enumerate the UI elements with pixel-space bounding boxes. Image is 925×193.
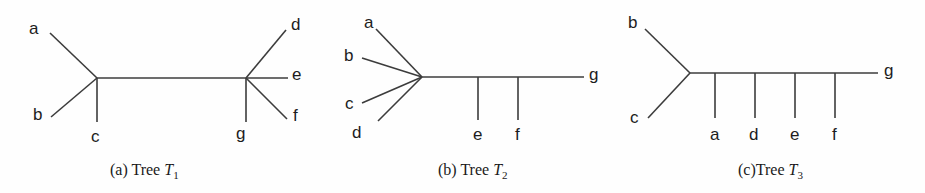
tree-t3-edge-b	[645, 29, 690, 73]
tree-t2-edge-c	[362, 77, 422, 103]
tree-t3-leaf-label-g: g	[884, 62, 893, 79]
tree-t3-caption-subscript: 3	[797, 169, 803, 181]
tree-t1-edge-d	[246, 30, 286, 78]
tree-t1-caption-variable: T	[164, 161, 173, 178]
tree-t1-edge-b	[51, 78, 97, 117]
edges-group	[50, 29, 878, 122]
tree-t2-caption-subscript: 2	[502, 169, 508, 181]
tree-t2-leaf-label-d: d	[352, 124, 361, 141]
tree-t2-caption-prefix: (b)	[438, 161, 460, 178]
tree-t3-leaf-label-d: d	[749, 126, 758, 143]
tree-t1-leaf-label-f: f	[293, 107, 298, 124]
tree-t1-leaf-label-a: a	[29, 20, 38, 37]
tree-t1-leaf-label-b: b	[33, 106, 42, 123]
tree-t3-leaf-label-c: c	[630, 109, 639, 126]
tree-t1-edge-f	[246, 78, 287, 119]
tree-t1-leaf-label-d: d	[291, 16, 300, 33]
tree-t3-caption-word: Tree	[756, 161, 789, 178]
tree-t2-leaf-label-g: g	[589, 66, 598, 83]
tree-t3-edges	[645, 29, 878, 118]
tree-t3-caption-prefix: (c)	[738, 161, 756, 178]
tree-t3-edge-c	[648, 73, 690, 118]
tree-t1-caption-subscript: 1	[173, 169, 179, 181]
tree-t2-leaf-label-a: a	[364, 14, 373, 31]
tree-t2-leaf-label-c: c	[345, 95, 354, 112]
tree-t1-leaf-label-c: c	[91, 128, 100, 145]
tree-t3-leaf-label-b: b	[628, 14, 637, 31]
tree-t2-leaf-label-b: b	[344, 47, 353, 64]
phylogenetic-tree-figure: abcdefgabcdefgbcadefg (a) Tree T1(b) Tre…	[0, 0, 925, 193]
tree-t2-caption: (b) Tree T2	[438, 162, 508, 181]
tree-t1-caption: (a) Tree T1	[110, 162, 179, 181]
tree-t3-leaf-label-f: f	[832, 126, 837, 143]
tree-t3-caption: (c)Tree T3	[738, 162, 803, 181]
tree-t2-caption-word: Tree	[460, 161, 493, 178]
tree-t1-caption-word: Tree	[131, 161, 164, 178]
tree-t2-leaf-label-f: f	[515, 126, 520, 143]
tree-t1-caption-prefix: (a)	[110, 161, 131, 178]
tree-t1-edges	[50, 30, 288, 122]
tree-t1-edge-a	[50, 33, 97, 78]
tree-t2-caption-variable: T	[493, 161, 502, 178]
tree-t2-leaf-label-e: e	[473, 126, 482, 143]
tree-t1-leaf-label-e: e	[292, 66, 301, 83]
tree-t3-leaf-label-a: a	[710, 126, 719, 143]
tree-t1-leaf-label-g: g	[236, 125, 245, 142]
tree-t3-leaf-label-e: e	[790, 126, 799, 143]
tree-t2-edges	[362, 29, 584, 121]
tree-t2-edge-d	[378, 77, 422, 121]
